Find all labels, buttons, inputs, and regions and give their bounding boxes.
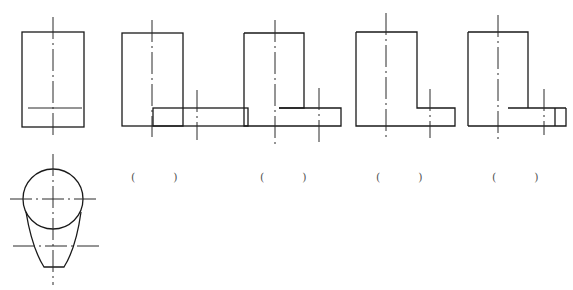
- given-top-view: [10, 154, 103, 285]
- option-2-answer-blank[interactable]: (): [260, 171, 307, 184]
- option-1-drawing: [122, 20, 248, 140]
- option-4-drawing: [468, 15, 566, 143]
- option-4-answer-blank[interactable]: (): [492, 171, 539, 184]
- option-3-drawing: [356, 13, 455, 141]
- given-front-view: [22, 17, 84, 137]
- option-2-drawing: [244, 20, 341, 145]
- option-1-answer-blank[interactable]: (): [131, 171, 178, 184]
- engineering-drawing: [0, 0, 573, 290]
- option-3-answer-blank[interactable]: (): [376, 171, 423, 184]
